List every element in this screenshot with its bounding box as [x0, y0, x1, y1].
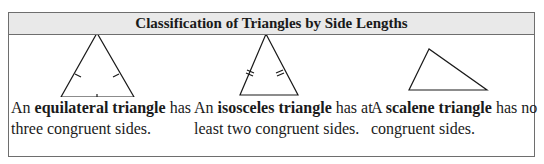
table-title: Classification of Triangles by Side Leng…: [9, 13, 534, 35]
scalene-triangle-figure: [379, 35, 539, 97]
equilateral-caption: An equilateral triangle has three congru…: [11, 97, 191, 139]
classification-table: Classification of Triangles by Side Leng…: [8, 12, 535, 157]
equilateral-triangle-figure: [9, 35, 169, 97]
isosceles-caption: An isosceles triangle has at least two c…: [194, 97, 373, 139]
isosceles-triangle-figure: [184, 35, 344, 97]
scalene-caption: A scalene triangle has no congruent side…: [371, 97, 537, 139]
